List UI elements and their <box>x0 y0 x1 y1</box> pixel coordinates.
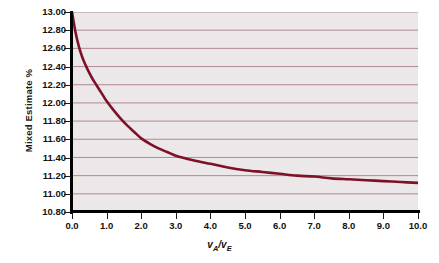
x-axis-tick-mark <box>176 213 177 219</box>
y-axis-tick-label: 11.60 <box>26 135 66 145</box>
x-axis-tick-mark <box>280 213 281 219</box>
y-axis-tick-mark <box>64 121 71 122</box>
x-axis-tick-mark <box>314 213 315 219</box>
y-axis-tick-mark <box>64 103 71 104</box>
y-axis-tick-mark <box>64 85 71 86</box>
x-axis-tick-mark <box>107 213 108 219</box>
y-axis-tick-label: 12.80 <box>26 25 66 35</box>
y-axis-tick-mark <box>64 12 71 13</box>
y-axis-tick-label: 12.40 <box>26 62 66 72</box>
plot-area <box>72 12 418 212</box>
chart-figure: Mixed Estimate % 13.0012.8012.6012.4012.… <box>0 0 439 263</box>
x-axis-title-sub2: E <box>227 244 232 253</box>
y-axis-tick-label: 13.00 <box>26 7 66 17</box>
x-axis-tick-label: 10.0 <box>398 221 438 231</box>
y-axis-tick-mark <box>64 212 71 213</box>
y-axis-tick-label: 11.00 <box>26 189 66 199</box>
x-axis-tick-mark <box>72 213 73 219</box>
y-axis-tick-mark <box>64 194 71 195</box>
y-axis-tick-mark <box>64 67 71 68</box>
y-axis-tick-mark <box>64 48 71 49</box>
x-axis-tick-mark <box>418 213 419 219</box>
y-axis-tick-label: 12.00 <box>26 98 66 108</box>
y-axis-tick-label: 11.20 <box>26 171 66 181</box>
x-axis-tick-mark <box>245 213 246 219</box>
y-axis-tick-label: 12.60 <box>26 44 66 54</box>
y-axis-tick-label: 11.80 <box>26 116 66 126</box>
y-axis-tick-mark <box>64 30 71 31</box>
y-axis-tick-label: 11.40 <box>26 153 66 163</box>
y-axis-spine <box>70 11 73 214</box>
x-axis-tick-mark <box>141 213 142 219</box>
x-axis-tick-mark <box>349 213 350 219</box>
y-axis-tick-label: 12.20 <box>26 80 66 90</box>
y-axis-tick-mark <box>64 139 71 140</box>
x-axis-tick-mark <box>210 213 211 219</box>
y-axis-tick-mark <box>64 158 71 159</box>
x-axis-title: vA/vE <box>0 239 439 253</box>
y-axis-tick-mark <box>64 176 71 177</box>
y-axis-tick-labels: 13.0012.8012.6012.4012.2012.0011.8011.60… <box>26 12 66 212</box>
x-axis-tick-mark <box>383 213 384 219</box>
plot-svg <box>72 12 418 212</box>
y-axis-tick-label: 10.80 <box>26 207 66 217</box>
gridlines <box>72 12 418 194</box>
